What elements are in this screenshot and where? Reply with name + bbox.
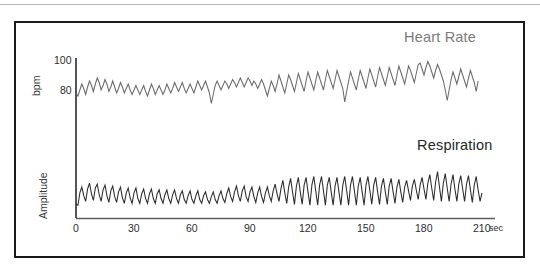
x-tick-label-60: 60 bbox=[186, 222, 198, 234]
x-axis-unit-label: sec bbox=[489, 223, 503, 233]
heart-rate-trace bbox=[76, 62, 478, 104]
series-label-respiration: Respiration bbox=[417, 137, 493, 153]
series-label-heart-rate: Heart Rate bbox=[404, 29, 476, 45]
y-tick-label-80: 80 bbox=[60, 84, 72, 96]
y-tick-label-100: 100 bbox=[54, 54, 72, 66]
x-tick-label-90: 90 bbox=[244, 222, 256, 234]
x-tick-label-0: 0 bbox=[73, 222, 79, 234]
x-tick-label-30: 30 bbox=[128, 222, 140, 234]
x-tick-label-210: 210 bbox=[473, 222, 491, 234]
respiration-trace bbox=[76, 172, 482, 206]
x-tick-label-180: 180 bbox=[415, 222, 433, 234]
y-axis-title-bpm: bpm bbox=[30, 76, 42, 96]
y-axis-title-amplitude: Amplitude bbox=[37, 172, 49, 219]
x-tick-label-120: 120 bbox=[299, 222, 317, 234]
x-tick-label-150: 150 bbox=[357, 222, 375, 234]
